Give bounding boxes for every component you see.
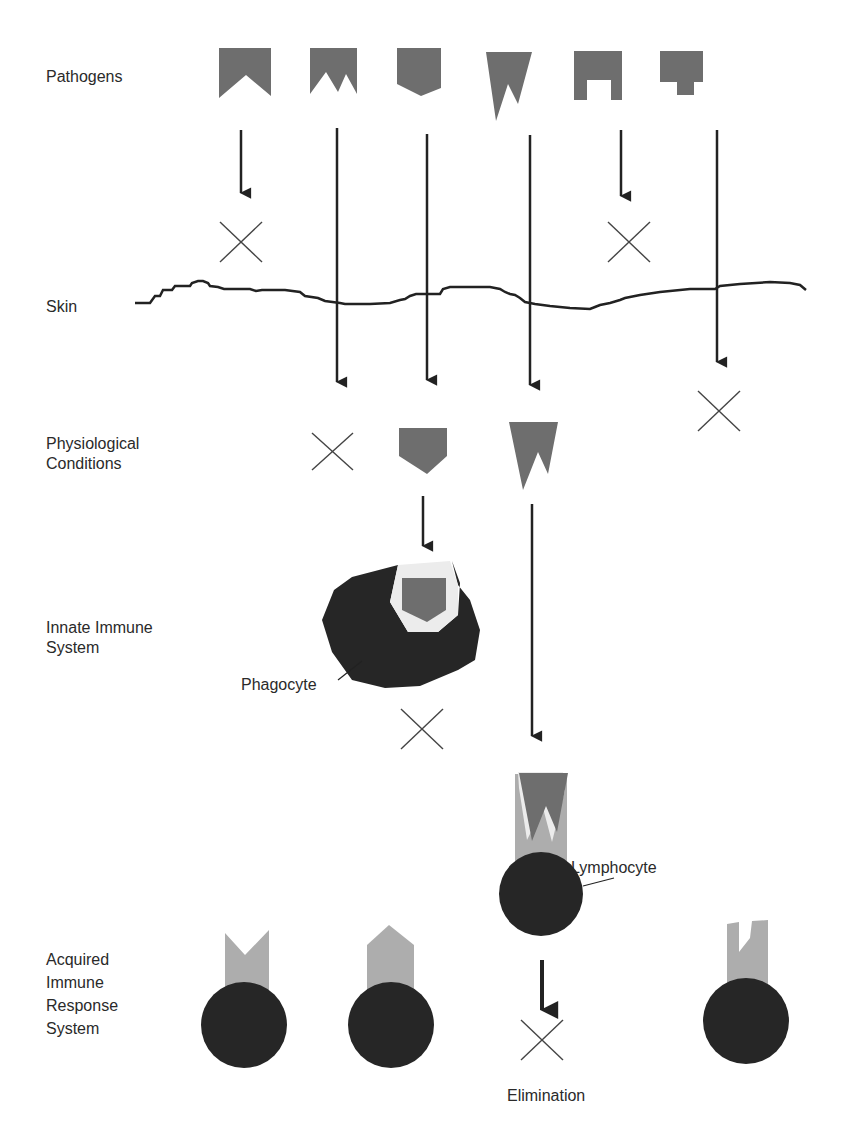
blocked-x-icon <box>220 222 262 262</box>
pathogen-double-spike-icon <box>310 48 357 94</box>
pathogen-row <box>219 48 703 121</box>
pathogen-notch-v-icon <box>219 48 271 98</box>
phagocyte-cell <box>322 561 480 688</box>
blocked-x-icon <box>698 391 740 431</box>
lymphocyte-receptor-v-cell <box>201 930 287 1068</box>
pathogen-w-spike-icon <box>486 52 532 121</box>
lymphocyte-receptor-notch-cell <box>703 920 789 1064</box>
arrow-group <box>241 128 717 1010</box>
pathogen-pentagon-icon <box>397 48 441 96</box>
pathogen-notch-square-icon <box>574 51 622 100</box>
blocked-x-icon <box>608 222 650 262</box>
skin-line <box>135 281 806 309</box>
pathogen-t-block-icon <box>660 51 703 95</box>
lymphocyte-cell <box>499 772 614 936</box>
blocked-x-icon <box>521 1020 563 1060</box>
blocked-x-icon <box>401 709 443 749</box>
pathogen-w-spike-surviving-icon <box>509 422 558 490</box>
lymphocyte-receptor-point-cell <box>348 925 434 1068</box>
blocked-marks <box>220 222 740 1060</box>
pathogen-pentagon-surviving-icon <box>399 428 447 474</box>
blocked-x-icon <box>312 433 353 470</box>
